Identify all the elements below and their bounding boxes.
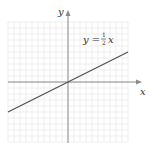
y-axis-arrow-icon — [66, 10, 71, 16]
equation-annotation: y = 1 2 x — [82, 31, 114, 46]
equation-numerator: 1 — [102, 31, 106, 38]
x-axis-label: x — [140, 86, 146, 97]
equation-lhs: y = — [82, 34, 100, 45]
y-axis-label: y — [57, 6, 64, 17]
equation-rhs: x — [108, 34, 114, 45]
coordinate-plane: x y y = 1 2 x — [0, 0, 149, 147]
x-axis-arrow-icon — [136, 80, 142, 85]
y-axis — [66, 10, 71, 143]
equation-denominator: 2 — [102, 39, 106, 46]
